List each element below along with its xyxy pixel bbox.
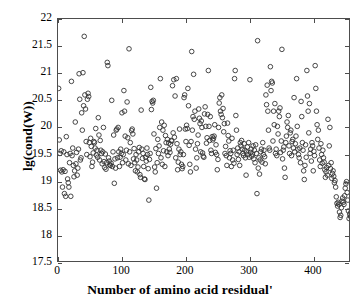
data-point [264,93,269,98]
data-point [284,134,289,139]
data-point [274,147,279,152]
y-axis-tick [58,155,62,156]
y-axis-tick [345,127,349,128]
data-point [271,109,276,114]
data-point [244,173,249,178]
data-point [299,114,304,119]
data-point [319,141,324,146]
data-point [294,76,299,81]
data-point [125,100,130,105]
data-point [73,120,78,125]
data-point [237,163,242,168]
data-point [301,169,306,174]
y-axis-tick [58,100,62,101]
data-point [70,146,75,151]
data-point [58,138,62,143]
data-point [136,165,141,170]
data-point [196,133,201,138]
data-point [307,101,312,106]
data-point [266,109,271,114]
x-tick-label: 0 [37,265,77,277]
x-axis-tick [58,19,59,23]
data-point [170,83,175,88]
data-point [309,159,314,164]
data-point [298,160,303,165]
data-point [315,137,320,142]
x-axis-tick [250,257,251,261]
y-axis-tick [345,73,349,74]
data-point [154,186,159,191]
data-point [151,98,156,103]
data-point [139,108,144,113]
x-tick-label: 100 [101,265,141,277]
data-point [285,120,290,125]
data-point [264,102,269,107]
data-point [195,141,200,146]
data-point [146,166,151,171]
data-point [194,166,199,171]
y-tick-label: 18 [14,229,52,241]
data-point [161,128,166,133]
data-point [152,165,157,170]
data-point [328,125,333,130]
scatter-plot-figure: 17.51818.51919.52020.52121.522 010020030… [0,0,360,308]
x-axis-tick [122,257,123,261]
y-axis-tick [58,127,62,128]
y-axis-title: lg(cond(W)) [20,56,36,216]
data-point [203,105,208,110]
data-point [122,88,127,93]
data-point [255,38,260,43]
data-point [279,139,284,144]
x-tick-label: 400 [293,265,333,277]
data-point [148,85,153,90]
data-point [223,144,228,149]
data-point [280,47,285,52]
y-axis-tick [58,46,62,47]
data-point [299,99,304,104]
data-point [302,177,307,182]
data-point [69,79,74,84]
data-point [156,137,161,142]
data-point [233,68,238,73]
data-point [156,151,161,156]
data-point [255,191,260,196]
data-point [315,122,320,127]
data-point [276,132,281,137]
data-point [345,190,349,195]
data-point [333,185,338,190]
data-point [64,134,69,139]
data-point [79,111,84,116]
data-point [216,157,221,162]
data-point [286,113,291,118]
data-point [98,138,103,143]
data-point [306,109,311,114]
data-point [155,160,160,165]
data-point [214,143,219,148]
y-axis-tick [345,19,349,20]
data-point [191,72,196,77]
data-point [294,134,299,139]
data-point [295,124,300,129]
data-point [283,175,288,180]
data-point [225,163,230,168]
data-point [268,64,273,69]
data-point [221,129,226,134]
data-point [334,195,339,200]
data-point [186,103,191,108]
data-point [76,166,81,171]
data-point [97,133,102,138]
data-point [304,155,309,160]
data-point [221,106,226,111]
data-point [106,63,111,68]
data-point [282,166,287,171]
data-point [112,181,117,186]
data-point [195,156,200,161]
y-axis-tick [345,182,349,183]
data-point [182,93,187,98]
x-axis-tick [314,19,315,23]
data-point [186,86,191,91]
data-point [266,128,271,133]
data-point [111,150,116,155]
data-point [159,156,164,161]
data-point [158,76,163,81]
